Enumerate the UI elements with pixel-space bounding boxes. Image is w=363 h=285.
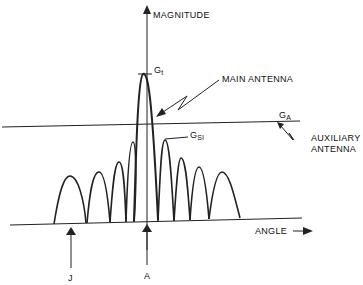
- angle-label: ANGLE: [255, 226, 287, 236]
- main-antenna-arrowhead-icon: [156, 108, 166, 117]
- main-antenna-label: MAIN ANTENNA: [222, 74, 293, 84]
- a-arrowhead-icon: [142, 224, 152, 232]
- angle-arrow-icon: [303, 227, 313, 235]
- auxiliary-antenna-callout: AUXILIARY ANTENNA: [277, 122, 361, 154]
- main-lobe: [134, 74, 158, 222]
- side-lobes-right: [158, 140, 240, 221]
- antenna-pattern-diagram: MAGNITUDE ANGLE GA Gt GSl: [0, 0, 363, 285]
- axis-arrowhead-icon: [143, 5, 151, 14]
- angle-axis: ANGLE: [10, 218, 313, 236]
- jammer-marker: J: [66, 227, 76, 283]
- main-antenna-callout: MAIN ANTENNA: [156, 74, 293, 117]
- side-lobes-left: [54, 142, 136, 224]
- aux-antenna-label-line1: AUXILIARY: [311, 133, 361, 143]
- gt-label: Gt: [154, 65, 164, 76]
- a-label: A: [144, 271, 150, 281]
- j-label: J: [68, 273, 73, 283]
- j-arrowhead-icon: [66, 227, 76, 235]
- magnitude-label: MAGNITUDE: [153, 10, 210, 20]
- gsl-label: GSl: [190, 130, 204, 141]
- antenna-marker: A: [142, 224, 152, 281]
- ga-label: GA: [279, 110, 291, 121]
- gsl-callout: GSl: [165, 130, 204, 141]
- aux-antenna-label-line2: ANTENNA: [311, 144, 356, 154]
